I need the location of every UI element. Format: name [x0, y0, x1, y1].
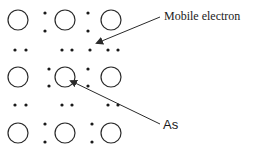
atom	[8, 123, 28, 143]
as-arrow	[71, 81, 160, 124]
mobile-electron	[88, 48, 91, 51]
doping-lattice-diagram: Mobile electron As	[0, 0, 263, 151]
atom	[101, 10, 121, 30]
atom-row-0	[8, 10, 121, 30]
atom	[101, 123, 121, 143]
mobile-electron-label: Mobile electron	[164, 9, 240, 23]
atom-row-1	[8, 67, 121, 87]
atom	[55, 10, 75, 30]
atom	[8, 10, 28, 30]
dopant-atom-as	[55, 67, 75, 87]
atom	[101, 67, 121, 87]
atom	[8, 67, 28, 87]
atom	[55, 123, 75, 143]
as-label: As	[163, 117, 179, 132]
atom-row-2	[8, 123, 121, 143]
bond-electrons-horizontal	[13, 48, 119, 106]
mobile-electron-arrow	[97, 17, 160, 43]
